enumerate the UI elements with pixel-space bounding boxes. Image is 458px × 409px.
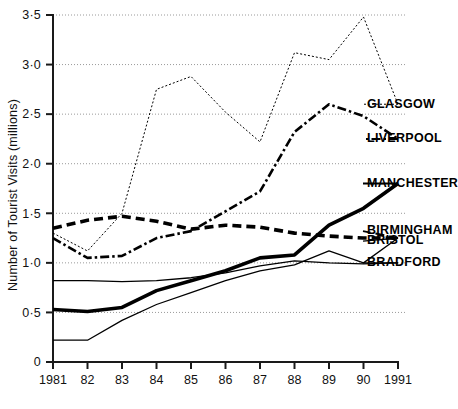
y-tick-label: 2·5: [22, 107, 41, 121]
x-tick-label: 83: [115, 373, 129, 387]
series-labels: GLASGOWLIVERPOOLMANCHESTERBIRMINGHAMBRIS…: [367, 97, 458, 270]
x-tick-label: 82: [81, 373, 95, 387]
x-tick-label: 89: [322, 373, 336, 387]
y-tick-label: 3·0: [22, 58, 41, 72]
chart-canvas: 00·51·01·52·02·53·03·5 19818283848586878…: [0, 0, 458, 409]
series-label-glasgow: GLASGOW: [367, 97, 435, 111]
series-line-manchester: [53, 184, 398, 312]
x-tick-label: 86: [219, 373, 233, 387]
series-label-bristol: BRISTOL: [367, 233, 424, 247]
series-label-liverpool: LIVERPOOL: [367, 131, 442, 145]
series-line-bristol: [53, 238, 398, 340]
series-lines: [53, 17, 398, 340]
x-tick-label: 85: [184, 373, 198, 387]
tourist-visits-line-chart: 00·51·01·52·02·53·03·5 19818283848586878…: [0, 0, 458, 409]
y-tick-label: 1·0: [22, 256, 41, 270]
series-line-liverpool: [53, 104, 398, 258]
y-tick-label: 2·0: [22, 157, 41, 171]
series-line-birmingham: [53, 216, 398, 238]
x-tick-label: 90: [357, 373, 371, 387]
series-label-manchester: MANCHESTER: [367, 176, 458, 190]
y-tick-label: 0: [34, 355, 41, 369]
series-label-bradford: BRADFORD: [367, 255, 441, 269]
y-axis-ticks: 00·51·01·52·02·53·03·5: [22, 8, 53, 369]
x-tick-label: 1981: [39, 373, 67, 387]
x-tick-label: 87: [253, 373, 267, 387]
x-axis-ticks: 19818283848586878889901991: [39, 362, 412, 387]
x-tick-label: 1991: [384, 373, 412, 387]
y-tick-label: 1·5: [22, 207, 41, 221]
y-tick-label: 3·5: [22, 8, 41, 22]
y-axis-title-text: Number of Tourist Visits (millions): [6, 99, 20, 291]
x-tick-label: 84: [150, 373, 164, 387]
y-tick-label: 0·5: [22, 306, 41, 320]
y-axis-title: Number of Tourist Visits (millions): [6, 99, 20, 291]
x-tick-label: 88: [288, 373, 302, 387]
